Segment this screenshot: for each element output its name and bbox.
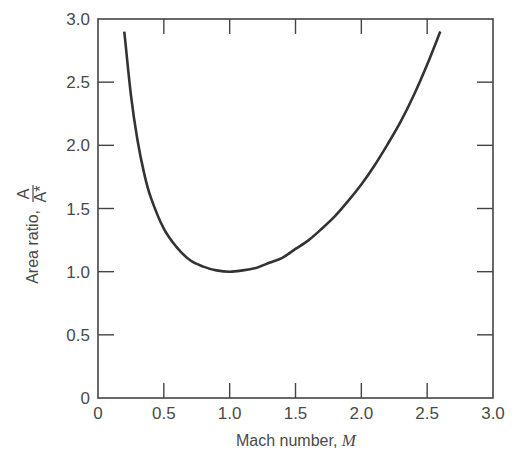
area-ratio-chart: 00.51.01.52.02.53.0 00.51.01.52.02.53.0 … (0, 0, 526, 464)
y-tick-label: 1.5 (66, 200, 90, 219)
y-tick-label: 0.5 (66, 326, 90, 345)
svg-text:Area ratio,: Area ratio, (24, 210, 41, 284)
area-ratio-curve (124, 32, 440, 272)
y-tick-label: 2.5 (66, 73, 90, 92)
plot-frame (98, 19, 493, 398)
y-label-numerator: A (15, 188, 32, 199)
x-axis: 00.51.01.52.02.53.0 (93, 19, 505, 423)
y-label-denominator: A* (32, 186, 49, 203)
x-axis-label: Mach number, M (236, 431, 357, 450)
x-tick-label: 2.0 (350, 404, 374, 423)
x-tick-label: 0.5 (152, 404, 176, 423)
x-tick-label: 1.5 (284, 404, 308, 423)
y-tick-label: 0 (81, 389, 90, 408)
y-tick-label: 2.0 (66, 136, 90, 155)
x-tick-label: 1.0 (218, 404, 242, 423)
y-tick-label: 1.0 (66, 263, 90, 282)
y-tick-label: 3.0 (66, 10, 90, 29)
x-tick-label: 3.0 (481, 404, 505, 423)
y-axis: 00.51.01.52.02.53.0 (66, 10, 493, 408)
x-tick-label: 2.5 (415, 404, 439, 423)
x-tick-label: 0 (93, 404, 102, 423)
y-axis-label: Area ratio, A A* (15, 185, 49, 284)
